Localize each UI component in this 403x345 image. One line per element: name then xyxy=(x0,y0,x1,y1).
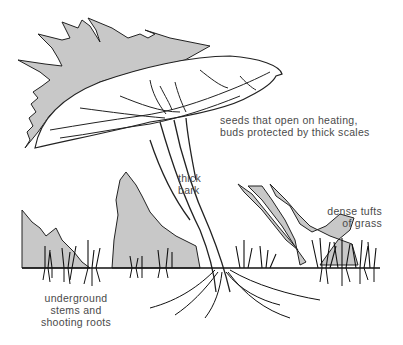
label-underground-stems: underground stems and shooting roots xyxy=(36,292,116,328)
label-line: bark xyxy=(178,184,201,196)
label-line: stems and xyxy=(36,304,116,316)
label-line: thick xyxy=(178,172,201,184)
label-thick-bark: thick bark xyxy=(178,172,201,196)
label-seeds-buds: seeds that open on heating, buds protect… xyxy=(220,114,370,138)
left-ground-flame xyxy=(22,210,90,268)
label-line: dense tufts xyxy=(326,205,382,217)
fire-adaptation-diagram: seeds that open on heating, buds protect… xyxy=(0,0,403,345)
label-dense-tufts: dense tufts of grass xyxy=(326,205,382,229)
label-line: shooting roots xyxy=(36,316,116,328)
label-line: buds protected by thick scales xyxy=(220,126,370,138)
label-line: underground xyxy=(36,292,116,304)
label-line: seeds that open on heating, xyxy=(220,114,370,126)
label-line: of grass xyxy=(326,217,382,229)
